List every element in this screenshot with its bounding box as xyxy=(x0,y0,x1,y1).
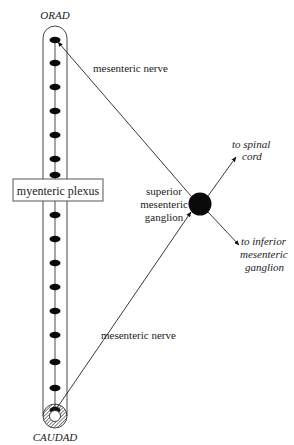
mesenteric-nerve-lower-line xyxy=(57,212,191,408)
spinal-cord-label-line1: to spinal xyxy=(232,138,270,150)
spinal-cord-label-line2: cord xyxy=(242,150,262,162)
ganglion-label-line2: mesenteric xyxy=(140,198,188,210)
myenteric-plexus-label: myenteric plexus xyxy=(17,184,100,198)
ganglion-label-line1: superior xyxy=(146,185,182,197)
plexus-node xyxy=(50,37,61,43)
superior-mesenteric-ganglion xyxy=(189,193,212,216)
enteric-nervous-system-diagram: myenteric plexus ORAD CAUDAD mesenteric … xyxy=(0,0,294,445)
orad-label: ORAD xyxy=(40,9,69,21)
mesenteric-nerve-upper-label: mesenteric nerve xyxy=(93,62,168,74)
inferior-ganglion-label-line2: mesenteric xyxy=(240,248,288,260)
to-inferior-ganglion-arrow xyxy=(208,212,239,245)
ganglion-label-line3: ganglion xyxy=(145,211,184,223)
caudad-label: CAUDAD xyxy=(33,431,78,443)
mesenteric-nerve-lower-label: mesenteric nerve xyxy=(101,329,176,341)
inferior-ganglion-label-line1: to inferior xyxy=(241,235,287,247)
inferior-ganglion-label-line3: ganglion xyxy=(245,261,285,273)
gut-cross-section-icon xyxy=(43,404,67,428)
to-spinal-cord-arrow xyxy=(208,157,236,196)
